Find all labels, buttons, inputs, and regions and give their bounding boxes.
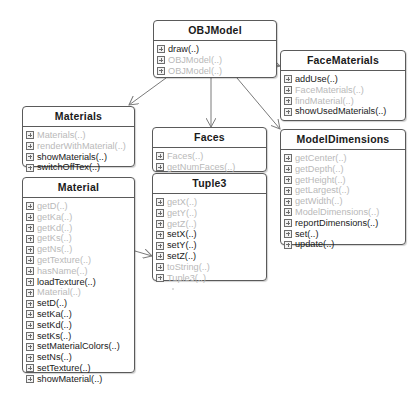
class-objmodel[interactable]: OBJModel draw(..) OBJModel(..) OBJModel(… bbox=[153, 20, 277, 78]
expand-plus-icon[interactable] bbox=[26, 235, 34, 243]
method-item[interactable]: getHeight(..) bbox=[284, 175, 403, 186]
method-item[interactable]: setKs(..) bbox=[26, 331, 132, 342]
method-item[interactable]: setZ(..) bbox=[156, 251, 264, 262]
expand-plus-icon[interactable] bbox=[157, 56, 165, 64]
expand-plus-icon[interactable] bbox=[284, 187, 292, 195]
class-modeldimensions[interactable]: ModelDimensions getCenter(..) getDepth(.… bbox=[280, 129, 406, 245]
expand-plus-icon[interactable] bbox=[26, 364, 34, 372]
expand-plus-icon[interactable] bbox=[156, 263, 164, 271]
method-item[interactable]: getZ(..) bbox=[156, 219, 264, 230]
method-item[interactable]: getDepth(..) bbox=[284, 164, 403, 175]
method-item[interactable]: showUsedMaterials(..) bbox=[284, 106, 403, 117]
expand-plus-icon[interactable] bbox=[284, 108, 292, 116]
method-item[interactable]: loadTexture(..) bbox=[26, 277, 132, 288]
method-item[interactable]: setNs(..) bbox=[26, 352, 132, 363]
method-item[interactable]: draw(..) bbox=[157, 44, 274, 55]
expand-plus-icon[interactable] bbox=[156, 152, 164, 160]
method-item[interactable]: getKd(..) bbox=[26, 223, 132, 234]
expand-plus-icon[interactable] bbox=[284, 176, 292, 184]
method-item[interactable]: Materials(..) bbox=[26, 130, 132, 141]
method-item[interactable]: OBJModel(..) bbox=[157, 66, 274, 77]
method-item[interactable]: setY(..) bbox=[156, 240, 264, 251]
expand-plus-icon[interactable] bbox=[26, 310, 34, 318]
method-item[interactable]: getCenter(..) bbox=[284, 153, 403, 164]
expand-plus-icon[interactable] bbox=[26, 332, 34, 340]
method-item[interactable]: update(..) bbox=[284, 239, 403, 250]
method-item[interactable]: getWidth(..) bbox=[284, 196, 403, 207]
method-item[interactable]: getKa(..) bbox=[26, 212, 132, 223]
expand-plus-icon[interactable] bbox=[284, 198, 292, 206]
method-item[interactable]: renderWithMaterial(..) bbox=[26, 141, 132, 152]
method-item[interactable]: Material(..) bbox=[26, 287, 132, 298]
class-faces[interactable]: Faces Faces(..) getNumFaces(..) renderFa… bbox=[152, 127, 267, 172]
expand-plus-icon[interactable] bbox=[26, 343, 34, 351]
method-item[interactable]: setKd(..) bbox=[26, 320, 132, 331]
method-item[interactable]: set(..) bbox=[284, 229, 403, 240]
expand-plus-icon[interactable] bbox=[156, 242, 164, 250]
expand-plus-icon[interactable] bbox=[26, 256, 34, 264]
method-item[interactable]: setMaterialColors(..) bbox=[26, 341, 132, 352]
expand-plus-icon[interactable] bbox=[26, 375, 34, 383]
expand-plus-icon[interactable] bbox=[284, 230, 292, 238]
method-item[interactable]: findMaterial(..) bbox=[284, 96, 403, 107]
expand-plus-icon[interactable] bbox=[26, 131, 34, 139]
expand-plus-icon[interactable] bbox=[26, 202, 34, 210]
method-item[interactable]: setKa(..) bbox=[26, 309, 132, 320]
expand-plus-icon[interactable] bbox=[156, 198, 164, 206]
method-item[interactable]: setD(..) bbox=[26, 298, 132, 309]
expand-plus-icon[interactable] bbox=[26, 321, 34, 329]
method-item[interactable]: toString(..) bbox=[156, 262, 264, 273]
method-item[interactable]: showMaterial(..) bbox=[26, 374, 132, 385]
expand-plus-icon[interactable] bbox=[157, 45, 165, 53]
expand-plus-icon[interactable] bbox=[156, 252, 164, 260]
class-facematerials[interactable]: FaceMaterials addUse(..) FaceMaterials(.… bbox=[280, 50, 406, 121]
method-item[interactable]: getNs(..) bbox=[26, 244, 132, 255]
method-item[interactable]: showMaterials(..) bbox=[26, 152, 132, 163]
expand-plus-icon[interactable] bbox=[26, 164, 34, 172]
method-item[interactable]: setTexture(..) bbox=[26, 363, 132, 374]
expand-plus-icon[interactable] bbox=[284, 208, 292, 216]
expand-plus-icon[interactable] bbox=[26, 246, 34, 254]
method-item[interactable]: ModelDimensions(..) bbox=[284, 207, 403, 218]
expand-plus-icon[interactable] bbox=[284, 86, 292, 94]
method-item[interactable]: getTexture(..) bbox=[26, 255, 132, 266]
expand-plus-icon[interactable] bbox=[26, 289, 34, 297]
expand-plus-icon[interactable] bbox=[156, 163, 164, 171]
method-item[interactable]: hasName(..) bbox=[26, 266, 132, 277]
method-item[interactable]: Tuple3(..) bbox=[156, 273, 264, 284]
method-item[interactable]: OBJModel(..) bbox=[157, 55, 274, 66]
method-item[interactable]: setX(..) bbox=[156, 229, 264, 240]
expand-plus-icon[interactable] bbox=[156, 274, 164, 282]
method-item[interactable]: getLargest(..) bbox=[284, 185, 403, 196]
class-material[interactable]: Material getD(..) getKa(..) getKd(..) ge… bbox=[22, 177, 135, 373]
expand-plus-icon[interactable] bbox=[284, 154, 292, 162]
expand-plus-icon[interactable] bbox=[156, 231, 164, 239]
expand-plus-icon[interactable] bbox=[284, 219, 292, 227]
method-item[interactable]: getX(..) bbox=[156, 197, 264, 208]
class-materials[interactable]: Materials Materials(..) renderWithMateri… bbox=[22, 106, 135, 167]
expand-plus-icon[interactable] bbox=[26, 278, 34, 286]
method-item[interactable]: FaceMaterials(..) bbox=[284, 85, 403, 96]
method-item[interactable]: getNumFaces(..) bbox=[156, 162, 264, 173]
class-tuple3[interactable]: Tuple3 getX(..) getY(..) getZ(..) setX(.… bbox=[152, 173, 267, 281]
method-item[interactable]: addUse(..) bbox=[284, 74, 403, 85]
method-item[interactable]: Faces(..) bbox=[156, 151, 264, 162]
expand-plus-icon[interactable] bbox=[26, 354, 34, 362]
method-item[interactable]: switchOffTex(..) bbox=[26, 162, 132, 173]
expand-plus-icon[interactable] bbox=[284, 75, 292, 83]
expand-plus-icon[interactable] bbox=[26, 153, 34, 161]
expand-plus-icon[interactable] bbox=[284, 97, 292, 105]
expand-plus-icon[interactable] bbox=[284, 241, 292, 249]
method-item[interactable]: getD(..) bbox=[26, 201, 132, 212]
expand-plus-icon[interactable] bbox=[26, 267, 34, 275]
expand-plus-icon[interactable] bbox=[157, 67, 165, 75]
method-item[interactable]: getKs(..) bbox=[26, 233, 132, 244]
expand-plus-icon[interactable] bbox=[156, 209, 164, 217]
method-item[interactable]: reportDimensions(..) bbox=[284, 218, 403, 229]
expand-plus-icon[interactable] bbox=[156, 220, 164, 228]
expand-plus-icon[interactable] bbox=[26, 300, 34, 308]
expand-plus-icon[interactable] bbox=[26, 213, 34, 221]
method-item[interactable]: getY(..) bbox=[156, 208, 264, 219]
expand-plus-icon[interactable] bbox=[26, 224, 34, 232]
expand-plus-icon[interactable] bbox=[26, 142, 34, 150]
